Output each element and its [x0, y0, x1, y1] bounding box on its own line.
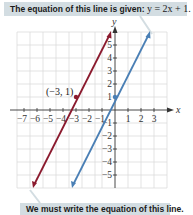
- axes: [10, 30, 170, 188]
- unknown-line-callout: We must write the equation of this line.: [20, 203, 170, 215]
- svg-text:−3: −3: [102, 144, 112, 154]
- point-label: (−3, 1): [46, 86, 73, 98]
- top-callout-pointer: [140, 16, 152, 34]
- svg-text:2: 2: [139, 114, 144, 124]
- x-tick-labels: −7 −6 −5 −4 −3 −2 −1 1 2 3: [17, 114, 157, 124]
- svg-text:−2: −2: [82, 114, 92, 124]
- svg-text:3: 3: [107, 66, 112, 76]
- svg-text:−5: −5: [102, 170, 112, 180]
- svg-text:1: 1: [126, 114, 131, 124]
- svg-text:−3: −3: [69, 114, 79, 124]
- x-axis-label: x: [175, 104, 181, 115]
- callout-text: We must write the equation of this line.: [26, 204, 184, 214]
- svg-text:−6: −6: [30, 114, 40, 124]
- coordinate-graph: x y −7 −6 −5 −4 −3 −2 −1 1 2 3: [0, 0, 193, 215]
- svg-text:1: 1: [107, 92, 112, 102]
- y-intercept-point: [113, 95, 117, 99]
- svg-text:3: 3: [152, 114, 157, 124]
- svg-text:4: 4: [107, 53, 112, 63]
- bottom-callout-pointer: [30, 190, 40, 203]
- point-neg3-1: [74, 95, 78, 99]
- svg-text:−2: −2: [102, 131, 112, 141]
- svg-text:2: 2: [107, 79, 112, 89]
- y-axis-arrow-icon: [113, 26, 118, 33]
- svg-text:−7: −7: [17, 114, 27, 124]
- y-axis-label: y: [111, 16, 117, 27]
- svg-text:−5: −5: [43, 114, 53, 124]
- svg-text:5: 5: [107, 40, 112, 50]
- x-axis-arrow-icon: [167, 108, 174, 113]
- svg-text:−4: −4: [102, 157, 112, 167]
